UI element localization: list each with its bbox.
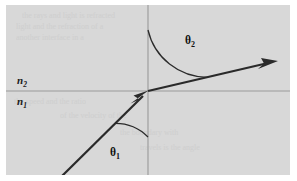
medium-label-upper-subscript: 2 bbox=[22, 80, 27, 89]
refraction-figure: the rays and light is refracted light an… bbox=[0, 0, 297, 181]
bleed-line: another interface in a bbox=[16, 33, 84, 42]
bleed-line: the rays and light is refracted bbox=[22, 11, 115, 20]
bleed-line: of the velocity of the bbox=[60, 111, 127, 120]
angle-of-incidence-subscript: 1 bbox=[116, 152, 120, 161]
medium-label-lower-subscript: 1 bbox=[23, 101, 27, 110]
refraction-diagram: the rays and light is refracted light an… bbox=[0, 0, 297, 181]
bleed-line: light and the refraction of a bbox=[16, 22, 104, 31]
bleed-line: travels is the angle bbox=[140, 143, 200, 152]
angle-of-refraction-subscript: 2 bbox=[191, 40, 195, 49]
bleed-line: the boundary with bbox=[120, 128, 178, 137]
